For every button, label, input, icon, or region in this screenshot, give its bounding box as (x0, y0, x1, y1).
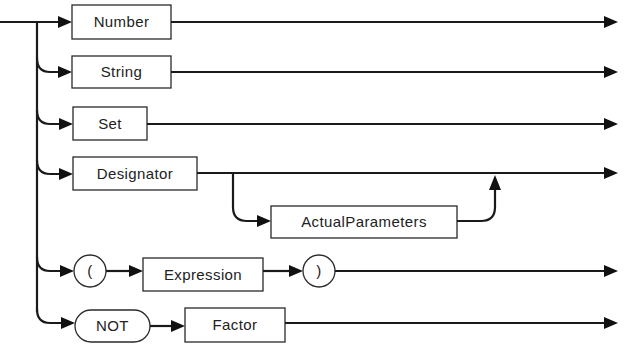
set-label: Set (98, 115, 122, 132)
exit-arrow-icon (604, 167, 618, 179)
actual-parameters-label: ActualParameters (301, 213, 427, 230)
exit-arrow-icon (604, 118, 618, 130)
designator-label: Designator (97, 165, 174, 182)
arrow-icon (59, 118, 73, 130)
factor-label: Factor (213, 316, 258, 333)
exit-arrow-icon (604, 265, 618, 277)
arrow-icon (129, 265, 143, 277)
arrow-icon (58, 16, 72, 28)
rparen-label: ) (316, 262, 321, 279)
arrow-icon (59, 168, 73, 180)
arrow-icon (257, 215, 271, 227)
lparen-label: ( (87, 262, 92, 279)
branch-set (37, 110, 60, 124)
not-label: NOT (96, 317, 129, 334)
expression-label: Expression (164, 266, 242, 283)
number-label: Number (94, 13, 150, 30)
syntax-diagram: Number String Set Designator ActualParam… (0, 0, 627, 357)
branch-designator (37, 160, 60, 174)
up-arrow-icon (489, 175, 501, 190)
string-label: String (101, 63, 143, 80)
optional-branch (233, 173, 259, 221)
branch-not (37, 309, 62, 323)
branch-string (37, 58, 60, 72)
arrow-icon (61, 317, 75, 329)
arrow-icon (58, 66, 72, 78)
branch-paren (37, 257, 62, 271)
optional-return (457, 188, 495, 221)
arrow-icon (60, 265, 74, 277)
exit-arrow-icon (604, 66, 618, 78)
exit-arrow-icon (604, 317, 618, 329)
arrow-icon (289, 265, 303, 277)
exit-arrow-icon (604, 16, 618, 28)
arrow-icon (171, 320, 185, 332)
